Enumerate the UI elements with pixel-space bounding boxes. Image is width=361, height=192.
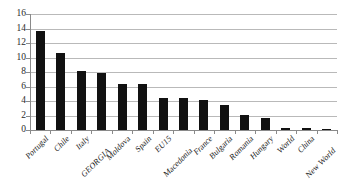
x-axis-label-slot: China [296,134,317,155]
y-axis-tick-mark [26,43,30,44]
x-axis-tick-mark [255,130,256,134]
bars-group [30,14,337,130]
bar [179,98,188,130]
x-axis-category-label: GEORGIA [80,145,112,179]
x-axis-tick-mark [91,130,92,134]
x-axis-tick-mark [214,130,215,134]
y-axis-tick-label: 8 [6,67,26,77]
x-axis-label-slot: Macedonia [161,146,194,179]
y-axis-tick-label: 10 [6,53,26,63]
x-axis-label-slot: Italy [74,134,91,151]
x-axis-tick-mark [173,130,174,134]
x-axis-tick-mark [132,130,133,134]
y-axis-tick-label: 2 [6,111,26,121]
x-axis-label-slot: Spain [133,134,153,154]
x-axis-tick-mark [317,130,318,134]
y-axis-tick-label: 4 [6,96,26,106]
bar [240,115,249,130]
x-axis-category-label: China [297,133,316,155]
x-axis-tick-mark [235,130,236,134]
x-axis-category-label: World [276,133,296,155]
x-axis-category-label: Spain [134,133,153,154]
x-axis-label-slot: GEORGIA [79,146,112,179]
plot-area [30,14,337,130]
bar [36,31,45,130]
x-axis-category-label: Moldova [105,133,132,162]
bar [56,53,65,130]
bar [138,84,147,130]
x-axis-category-label: EU15 [154,133,173,154]
x-axis-tick-mark [276,130,277,134]
bar [220,105,229,130]
y-axis-tick-mark [26,101,30,102]
x-axis-category-label: Portugal [25,133,50,161]
x-axis-label-slot: Chile [52,134,71,153]
bar-chart-figure: 1614121086420 PortugalChileItalyGEORGIAM… [0,0,361,192]
y-axis-tick-mark [26,116,30,117]
x-axis-tick-mark [337,130,338,134]
x-axis-label-slot: New World [304,146,338,180]
y-axis-tick-mark [26,72,30,73]
x-axis-tick-mark [153,130,154,134]
bar [159,98,168,130]
x-axis-tick-mark [194,130,195,134]
y-axis-tick-label: 12 [6,38,26,48]
x-axis-label-slot: EU15 [153,134,173,154]
y-axis-tick-mark [26,29,30,30]
x-axis-line [30,130,338,131]
x-axis-tick-mark [112,130,113,134]
y-axis-tick-label: 0 [6,125,26,135]
x-axis-tick-mark [296,130,297,134]
y-axis-tick-mark [26,58,30,59]
bar [118,84,127,130]
x-axis-label-slot: Portugal [24,134,51,161]
x-axis-category-label: Chile [52,133,70,153]
x-axis-tick-mark [50,130,51,134]
x-axis-category-label: Macedonia [162,145,194,179]
y-axis-tick-label: 14 [6,24,26,34]
bar [199,100,208,130]
y-axis-tick-label: 6 [6,82,26,92]
y-axis-tick-label: 16 [6,9,26,19]
bar [77,71,86,130]
y-axis-tick-mark [26,14,30,15]
x-axis-tick-mark [30,130,31,134]
x-axis-category-label: Italy [75,133,91,151]
x-axis-label-slot: World [275,134,296,155]
x-axis-tick-mark [71,130,72,134]
bar [261,118,270,130]
y-axis-line [30,14,31,131]
bar [97,73,106,130]
x-axis-category-label: New World [304,145,336,180]
y-axis-tick-mark [26,87,30,88]
